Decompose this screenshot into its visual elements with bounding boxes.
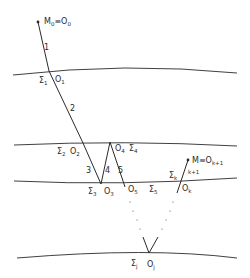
dotted-continuation-right xyxy=(161,201,173,229)
o3-label: O3 xyxy=(104,187,114,197)
start-point-dot xyxy=(37,21,40,24)
segment-4 xyxy=(101,142,110,184)
o2-label: O2 xyxy=(70,147,80,157)
sigma3-label: Σ3 xyxy=(88,187,97,197)
start-point-label: M0≡O0 xyxy=(44,17,71,27)
segment-j-left xyxy=(143,237,149,253)
interface-sigmaj xyxy=(17,253,237,259)
segment-3 xyxy=(83,143,101,184)
interface-sigma2 xyxy=(14,143,237,146)
segment-label-5: 5 xyxy=(118,166,123,175)
segment-label-2: 2 xyxy=(70,104,75,113)
sigmak-label: Σk xyxy=(169,171,178,181)
dotted-continuation-left xyxy=(129,201,140,229)
oj-label: Oj xyxy=(147,260,155,271)
ray-path-diagram: M0≡O0 M≡Ok+1 1 2 3 4 5 k+1 Σ1 Σ2 Σ3 Σ4 Σ… xyxy=(0,0,250,278)
end-point-label: M≡Ok+1 xyxy=(192,156,223,166)
ok-label: Ok xyxy=(182,184,192,194)
sigmaj-label: Σj xyxy=(131,259,138,270)
segment-label-3: 3 xyxy=(86,166,91,175)
interface-sigma3 xyxy=(14,178,237,183)
segment-label-4: 4 xyxy=(105,166,110,175)
segment-label-k-plus-1: k+1 xyxy=(188,169,199,175)
sigma2-label: Σ2 xyxy=(57,147,66,157)
interface-sigma1 xyxy=(13,68,237,75)
sigma1-label: Σ1 xyxy=(39,76,48,86)
end-point-dot xyxy=(187,159,190,162)
segment-j-right xyxy=(149,237,158,253)
sigma4-label: Σ4 xyxy=(129,144,138,154)
o5-label: O5 xyxy=(128,185,138,195)
segment-label-1: 1 xyxy=(44,43,49,52)
o4-label: O4 xyxy=(115,144,125,154)
o1-label: O1 xyxy=(55,75,65,85)
sigma5-label: Σ5 xyxy=(149,185,158,195)
